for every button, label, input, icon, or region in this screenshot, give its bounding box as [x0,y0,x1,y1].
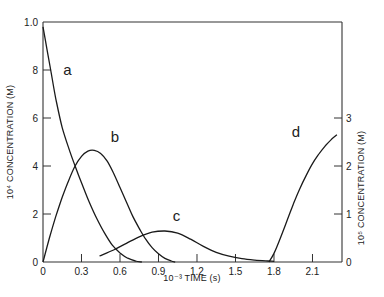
curve-d [269,135,337,262]
y-left-tick-label: 8 [32,65,38,76]
curve-labels: abcd [63,61,300,224]
y-right-tick-label: 3 [346,113,352,124]
y-left-tick-label: 6 [32,113,38,124]
y-right-tick-label: 0 [346,257,352,268]
x-tick-label: 0.3 [75,266,89,277]
y-axis-right-title: 10⁵ CONCENTRATION (M) [356,131,366,245]
curve-label-c: c [173,207,181,224]
y-left-tick-label: 0 [32,257,38,268]
y-left-tick-label: 2 [32,209,38,220]
x-axis-title: 10⁻³ TIME (s) [163,273,220,283]
curve-b [43,150,175,262]
x-tick-label: 1.8 [267,266,281,277]
curve-label-d: d [292,123,300,140]
x-tick-label: 0 [40,266,46,277]
x-tick-label: 2.1 [306,266,320,277]
x-tick-label: 1.5 [229,266,243,277]
curve-label-a: a [63,61,72,78]
axes [43,22,342,262]
y-axis-left-title: 10⁴ CONCENTRATION (M) [5,85,15,199]
chart: 00.30.60.91.21.51.82.124681.000123 abcd … [0,0,384,297]
y-left-tick-label: 4 [32,161,38,172]
y-right-tick-label: 2 [346,161,352,172]
curves [43,27,337,262]
x-tick-label: 0.6 [113,266,127,277]
y-right-tick-label: 1 [346,209,352,220]
curve-label-b: b [111,128,119,145]
curve-a [43,27,142,262]
y-left-tick-label: 1.0 [24,17,38,28]
